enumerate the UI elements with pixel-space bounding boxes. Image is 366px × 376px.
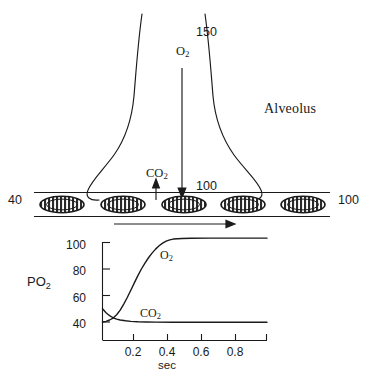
x-axis-title: sec bbox=[152, 360, 182, 372]
co2-diffusion-arrow bbox=[153, 179, 160, 200]
co2-diffusion-label: CO2 bbox=[146, 167, 168, 181]
y-tick-label: 60 bbox=[60, 292, 86, 304]
chart-curves bbox=[103, 238, 268, 322]
red-blood-cells bbox=[40, 196, 325, 212]
curve-label-o2: O2 bbox=[160, 249, 173, 264]
x-tick-label: 0.8 bbox=[220, 346, 250, 358]
capillary-inlet-po2-value: 40 bbox=[8, 194, 22, 207]
o2-diffusion-arrow bbox=[178, 68, 186, 198]
alveolar-o2-label-subscript: 2 bbox=[185, 49, 189, 59]
curve-o2 bbox=[103, 238, 268, 322]
alveolus-wall-left bbox=[87, 14, 142, 200]
red-blood-cell bbox=[101, 196, 145, 212]
red-blood-cell bbox=[281, 196, 325, 212]
capillary-outlet-po2-value: 100 bbox=[338, 194, 359, 207]
curve-label-co2-subscript: 2 bbox=[157, 312, 161, 321]
y-axis-title: PO2 bbox=[27, 275, 51, 291]
curve-label-co2-main: CO bbox=[140, 306, 157, 320]
capillary-equilibrium-po2-value: 100 bbox=[196, 180, 217, 193]
y-axis-title-subscript: 2 bbox=[46, 281, 51, 291]
alveolus-diagram bbox=[87, 14, 262, 200]
y-tick-label: 80 bbox=[60, 265, 86, 277]
curve-co2 bbox=[103, 309, 268, 323]
y-axis-title-main: PO bbox=[27, 274, 46, 289]
red-blood-cell bbox=[162, 196, 206, 212]
x-ticks bbox=[134, 334, 267, 341]
curve-label-co2: CO2 bbox=[140, 307, 161, 322]
alveolus-label: Alveolus bbox=[264, 102, 316, 116]
co2-diffusion-label-subscript: 2 bbox=[163, 171, 167, 181]
x-tick-label: 0.2 bbox=[118, 346, 148, 358]
y-tick-label: 40 bbox=[60, 318, 86, 330]
alveolar-o2-label-main: O bbox=[176, 44, 185, 58]
blood-flow-arrow bbox=[114, 220, 235, 227]
y-tick-label: 100 bbox=[60, 239, 86, 251]
x-tick-label: 0.6 bbox=[186, 346, 216, 358]
alveolar-po2-value: 150 bbox=[196, 26, 217, 39]
curve-label-o2-subscript: 2 bbox=[169, 254, 173, 263]
alveolar-o2-label: O2 bbox=[176, 45, 189, 59]
x-tick-label: 0.4 bbox=[152, 346, 182, 358]
red-blood-cell bbox=[40, 196, 84, 212]
co2-diffusion-label-main: CO bbox=[146, 166, 163, 180]
alveolus-wall-right bbox=[205, 14, 262, 200]
curve-label-o2-main: O bbox=[160, 248, 169, 262]
chart-axes bbox=[103, 242, 268, 341]
red-blood-cell bbox=[221, 196, 265, 212]
